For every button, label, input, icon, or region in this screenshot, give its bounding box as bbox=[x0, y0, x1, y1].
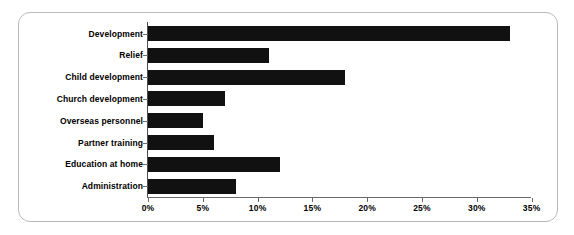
x-axis-line bbox=[147, 197, 531, 198]
x-axis-tick-label: 20% bbox=[347, 203, 387, 213]
bar-chart: DevelopmentReliefChild developmentChurch… bbox=[0, 0, 574, 235]
x-axis-tick-label: 5% bbox=[183, 203, 223, 213]
x-axis-tick-label: 10% bbox=[238, 203, 278, 213]
bar bbox=[148, 179, 236, 194]
category-label: Overseas personnel bbox=[0, 116, 143, 126]
x-axis-tick bbox=[367, 198, 368, 202]
x-axis-tick bbox=[258, 198, 259, 202]
x-axis-tick-label: 25% bbox=[402, 203, 442, 213]
x-axis-tick-label: 0% bbox=[128, 203, 168, 213]
x-axis-tick bbox=[312, 198, 313, 202]
x-axis-tick-label: 35% bbox=[512, 203, 552, 213]
bar bbox=[148, 91, 225, 106]
bar bbox=[148, 70, 345, 85]
category-label: Partner training bbox=[0, 138, 143, 148]
bar bbox=[148, 26, 510, 41]
x-axis-tick-label: 30% bbox=[457, 203, 497, 213]
bar bbox=[148, 48, 269, 63]
bar bbox=[148, 135, 214, 150]
x-axis-tick-label: 15% bbox=[292, 203, 332, 213]
category-label: Relief bbox=[0, 50, 143, 60]
category-label: Church development bbox=[0, 94, 143, 104]
category-label: Child development bbox=[0, 72, 143, 82]
bar bbox=[148, 157, 280, 172]
category-label: Education at home bbox=[0, 159, 143, 169]
category-label: Administration bbox=[0, 181, 143, 191]
x-axis-tick bbox=[532, 198, 533, 202]
x-axis-tick bbox=[477, 198, 478, 202]
x-axis-tick bbox=[422, 198, 423, 202]
bar bbox=[148, 113, 203, 128]
x-axis-tick bbox=[148, 198, 149, 202]
x-axis-tick bbox=[203, 198, 204, 202]
category-label: Development bbox=[0, 29, 143, 39]
